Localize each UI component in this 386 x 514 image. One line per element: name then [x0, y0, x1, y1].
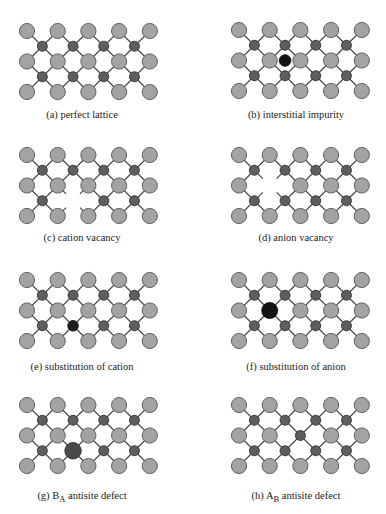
- panel-c: (c) cation vacancy: [19, 147, 157, 244]
- label-text: (h) A: [252, 490, 274, 502]
- anion: [50, 208, 65, 223]
- label-text: (c) cation vacancy: [44, 232, 122, 244]
- anion: [19, 178, 34, 193]
- cation: [280, 321, 290, 331]
- anion: [231, 272, 246, 287]
- anion: [19, 84, 34, 99]
- anion: [324, 333, 339, 348]
- panel-f: (f) substitution of anion: [231, 272, 369, 373]
- anion: [142, 54, 157, 69]
- anion: [112, 303, 127, 318]
- anion: [231, 303, 246, 318]
- anion: [19, 208, 34, 223]
- cation: [249, 40, 259, 50]
- cation: [311, 71, 321, 81]
- anion: [293, 22, 308, 37]
- anion: [354, 208, 369, 223]
- anion: [354, 83, 369, 98]
- panel-h: (h) AB antisite defect: [231, 397, 369, 504]
- cation: [249, 415, 259, 425]
- anion: [354, 458, 369, 473]
- anion: [142, 272, 157, 287]
- cation: [249, 321, 259, 331]
- cation: [249, 290, 259, 300]
- panel-e: (e) substitution of cation: [19, 272, 157, 373]
- antisite-cation-on-anion-site: [295, 431, 305, 441]
- anion: [50, 458, 65, 473]
- cation: [99, 196, 109, 206]
- substituted-anion: [262, 303, 278, 319]
- anion: [354, 397, 369, 412]
- cation: [99, 41, 109, 51]
- anion: [112, 147, 127, 162]
- cation: [311, 446, 321, 456]
- anion: [231, 83, 246, 98]
- anion: [354, 147, 369, 162]
- lattice-defects-figure: (a) perfect lattice(b) interstitial impu…: [0, 0, 386, 514]
- anion: [231, 428, 246, 443]
- anion: [324, 22, 339, 37]
- anion: [142, 303, 157, 318]
- anion: [293, 178, 308, 193]
- cation: [37, 41, 47, 51]
- cation: [99, 165, 109, 175]
- cation: [311, 290, 321, 300]
- label-suffix: antisite defect: [65, 490, 126, 501]
- cation: [280, 290, 290, 300]
- cation: [341, 321, 351, 331]
- label-text: (a) perfect lattice: [46, 109, 118, 121]
- panel-d: (d) anion vacancy: [231, 147, 369, 244]
- cation: [129, 72, 139, 82]
- cation: [280, 71, 290, 81]
- cation: [99, 290, 109, 300]
- panel-label-e: (e) substitution of cation: [31, 361, 135, 373]
- cation: [341, 165, 351, 175]
- cation: [341, 290, 351, 300]
- cation: [68, 165, 78, 175]
- anion: [112, 458, 127, 473]
- anion: [19, 397, 34, 412]
- anion: [324, 272, 339, 287]
- anion: [81, 23, 96, 38]
- anion: [50, 272, 65, 287]
- anion: [262, 22, 277, 37]
- anion: [112, 84, 127, 99]
- interstitial-impurity: [279, 55, 291, 67]
- anion: [293, 208, 308, 223]
- anion: [19, 333, 34, 348]
- cation: [37, 72, 47, 82]
- panel-label-d: (d) anion vacancy: [258, 232, 334, 244]
- anion: [50, 333, 65, 348]
- cation: [68, 41, 78, 51]
- cation: [280, 165, 290, 175]
- anion: [262, 428, 277, 443]
- cation: [280, 415, 290, 425]
- anion: [231, 147, 246, 162]
- cation: [249, 165, 259, 175]
- anion: [112, 208, 127, 223]
- anion: [142, 147, 157, 162]
- panel-label-f: (f) substitution of anion: [246, 361, 346, 373]
- anion: [142, 428, 157, 443]
- cation: [311, 415, 321, 425]
- anion: [112, 178, 127, 193]
- anion: [231, 397, 246, 412]
- anion: [142, 333, 157, 348]
- cation: [68, 72, 78, 82]
- cation: [280, 196, 290, 206]
- anion: [50, 178, 65, 193]
- anion: [293, 272, 308, 287]
- anion: [324, 397, 339, 412]
- panel-b: (b) interstitial impurity: [231, 22, 369, 121]
- cation: [99, 72, 109, 82]
- label-text: (e) substitution of cation: [31, 361, 135, 373]
- anion: [293, 53, 308, 68]
- anion: [293, 458, 308, 473]
- anion: [81, 458, 96, 473]
- anion: [112, 23, 127, 38]
- anion: [354, 303, 369, 318]
- substituted-cation: [68, 320, 79, 331]
- cation: [341, 415, 351, 425]
- anion: [50, 397, 65, 412]
- anion: [50, 147, 65, 162]
